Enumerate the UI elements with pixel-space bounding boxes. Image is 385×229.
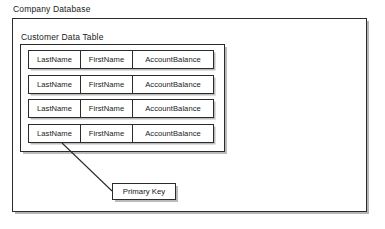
cell-firstname: FirstName xyxy=(81,51,133,68)
cell-firstname: FirstName xyxy=(81,76,133,93)
record-row-list: LastName FirstName AccountBalance LastNa… xyxy=(28,50,214,143)
cell-lastname: LastName xyxy=(29,51,81,68)
primary-key-callout: Primary Key xyxy=(112,183,176,200)
cell-firstname: FirstName xyxy=(81,100,133,117)
table-row: LastName FirstName AccountBalance xyxy=(28,124,214,143)
database-title: Company Database xyxy=(13,4,91,14)
diagram-canvas: Company Database Customer Data Table Las… xyxy=(0,0,385,229)
cell-accountbalance: AccountBalance xyxy=(133,125,213,142)
table-title: Customer Data Table xyxy=(21,32,104,42)
table-row: LastName FirstName AccountBalance xyxy=(28,50,214,69)
cell-lastname: LastName xyxy=(29,100,81,117)
cell-firstname: FirstName xyxy=(81,125,133,142)
table-row: LastName FirstName AccountBalance xyxy=(28,75,214,94)
cell-accountbalance: AccountBalance xyxy=(133,100,213,117)
cell-accountbalance: AccountBalance xyxy=(133,51,213,68)
cell-lastname: LastName xyxy=(29,125,81,142)
cell-lastname: LastName xyxy=(29,76,81,93)
cell-accountbalance: AccountBalance xyxy=(133,76,213,93)
table-row: LastName FirstName AccountBalance xyxy=(28,99,214,118)
